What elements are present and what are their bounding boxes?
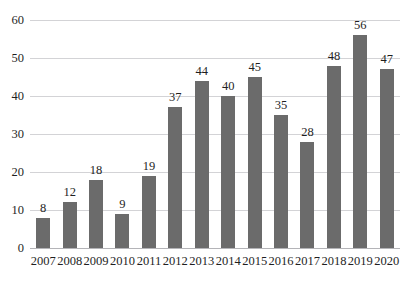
x-axis-tick-label: 2012 [163, 253, 188, 269]
bar [89, 180, 103, 248]
y-axis-tick-label: 0 [0, 242, 24, 254]
bar [115, 214, 129, 248]
bar-group: 37 [162, 20, 188, 248]
bars-layer: 81218919374440453528485647 [30, 20, 400, 248]
bar [221, 96, 235, 248]
y-axis-tick-label: 20 [0, 166, 24, 178]
bar [300, 142, 314, 248]
axis-baseline [30, 248, 400, 249]
bar [36, 218, 50, 248]
bar-group: 19 [136, 20, 162, 248]
bar-value-label: 45 [248, 61, 261, 74]
bar-value-label: 56 [354, 19, 367, 32]
y-axis: 0102030405060 [0, 20, 30, 248]
bar [63, 202, 77, 248]
bar-group: 12 [56, 20, 82, 248]
x-axis-tick-label: 2011 [137, 253, 162, 269]
bar-value-label: 12 [63, 186, 76, 199]
bar-group: 47 [374, 20, 400, 248]
bar-value-label: 40 [222, 80, 235, 93]
bar-chart-figure: 0102030405060 81218919374440453528485647… [0, 0, 408, 283]
bar [168, 107, 182, 248]
bar-value-label: 9 [119, 198, 125, 211]
bar [380, 69, 394, 248]
bar [195, 81, 209, 248]
x-axis-tick-label: 2009 [84, 253, 109, 269]
bar [274, 115, 288, 248]
bar-group: 18 [83, 20, 109, 248]
x-axis-tick-label: 2020 [374, 253, 399, 269]
y-axis-tick-label: 60 [0, 14, 24, 26]
x-axis-tick-label: 2018 [321, 253, 346, 269]
bar-value-label: 47 [381, 53, 394, 66]
bar-group: 28 [294, 20, 320, 248]
bar [142, 176, 156, 248]
bar-group: 9 [109, 20, 135, 248]
bar-group: 44 [189, 20, 215, 248]
bar-value-label: 28 [301, 126, 314, 139]
x-axis-tick-label: 2019 [348, 253, 373, 269]
x-axis: 2007200820092010201120122013201420152016… [30, 253, 400, 275]
y-axis-tick-label: 50 [0, 52, 24, 64]
bar-value-label: 35 [275, 99, 288, 112]
bar-group: 56 [347, 20, 373, 248]
x-axis-tick-label: 2010 [110, 253, 135, 269]
x-axis-tick-label: 2017 [295, 253, 320, 269]
x-axis-tick-label: 2014 [216, 253, 241, 269]
bar-group: 35 [268, 20, 294, 248]
bar-value-label: 48 [328, 50, 341, 63]
x-axis-tick-label: 2007 [31, 253, 56, 269]
bar-group: 45 [241, 20, 267, 248]
bar [248, 77, 262, 248]
bar-value-label: 19 [143, 160, 156, 173]
bar [327, 66, 341, 248]
x-axis-tick-label: 2013 [189, 253, 214, 269]
y-axis-tick-label: 10 [0, 204, 24, 216]
bar-value-label: 37 [169, 91, 182, 104]
bar-group: 48 [321, 20, 347, 248]
x-axis-tick-label: 2015 [242, 253, 267, 269]
x-axis-tick-label: 2008 [57, 253, 82, 269]
clipped-header-text [186, 0, 400, 6]
bar-value-label: 44 [196, 65, 209, 78]
bar-group: 8 [30, 20, 56, 248]
x-axis-tick-label: 2016 [269, 253, 294, 269]
bar-value-label: 18 [90, 164, 103, 177]
bar [353, 35, 367, 248]
y-axis-tick-label: 30 [0, 128, 24, 140]
bar-group: 40 [215, 20, 241, 248]
bar-value-label: 8 [40, 202, 46, 215]
y-axis-tick-label: 40 [0, 90, 24, 102]
